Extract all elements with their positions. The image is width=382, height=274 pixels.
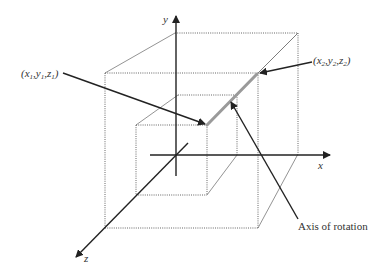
z-axis	[76, 143, 188, 257]
axis-of-rotation-label: Axis of rotation	[298, 220, 368, 232]
point-2-label: (x2,y2,z2)	[313, 54, 351, 68]
x-axis-label: x	[317, 159, 323, 171]
coordinate-axes: y x z	[76, 13, 330, 264]
p1-pointer	[63, 73, 205, 124]
rotation-axis-diagram: y x z (x1,y1,z1) (x2,y2,z2) Axis of rota…	[0, 0, 382, 274]
rotation-axis	[207, 33, 298, 125]
z-axis-label: z	[83, 252, 89, 264]
point-1-label: (x1,y1,z1)	[21, 67, 59, 81]
axis-of-rotation-pointer	[231, 102, 298, 219]
y-axis-label: y	[162, 13, 168, 25]
